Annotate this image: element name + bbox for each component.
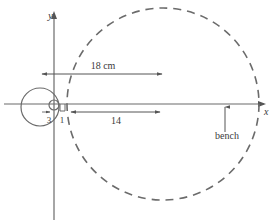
x-axis: x	[4, 101, 269, 117]
diagram-canvas: y x 18 cm 14 3 1 bench	[0, 0, 271, 223]
dimension-18cm: 18 cm	[42, 60, 162, 74]
bench-label: bench	[215, 130, 239, 141]
x-axis-label: x	[263, 106, 269, 117]
label-14: 14	[111, 115, 121, 126]
label-3: 3	[47, 115, 52, 125]
y-axis-label: y	[47, 9, 53, 21]
dimension-14: 14	[71, 112, 160, 126]
label-18cm: 18 cm	[91, 60, 116, 71]
label-1: 1	[60, 115, 65, 125]
medium-circle	[21, 88, 59, 126]
gap-bracket	[60, 104, 65, 111]
bench-pointer: bench	[215, 107, 239, 141]
